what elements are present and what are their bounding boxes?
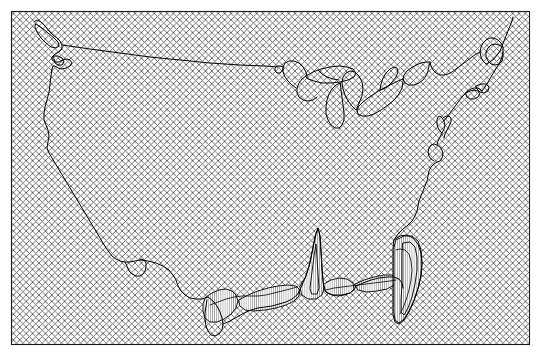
map-figure — [0, 0, 542, 357]
map-canvas — [0, 0, 542, 357]
